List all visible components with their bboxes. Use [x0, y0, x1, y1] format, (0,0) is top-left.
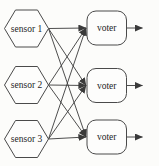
diagram-stage: sensor 1sensor 2sensor 3votervotervoter — [0, 0, 159, 166]
tmr-diagram: sensor 1sensor 2sensor 3votervotervoter — [0, 0, 159, 166]
edge-sensor-3-to-voter-3 — [49, 137, 87, 139]
voter-1-label: voter — [97, 23, 117, 33]
voter-2-node: voter — [87, 69, 127, 103]
sensor-2-node: sensor 2 — [5, 67, 49, 104]
voter-2-label: voter — [97, 81, 117, 91]
sensor-3-node: sensor 3 — [5, 121, 49, 158]
voter-3-label: voter — [97, 132, 117, 142]
sensor-2-label: sensor 2 — [11, 80, 43, 90]
sensor-1-label: sensor 1 — [11, 24, 43, 34]
voter-3-node: voter — [87, 120, 127, 154]
sensor-1-node: sensor 1 — [5, 10, 49, 47]
edge-sensor-1-to-voter-1 — [49, 28, 87, 29]
sensor-3-label: sensor 3 — [11, 134, 43, 144]
edge-sensor-2-to-voter-2 — [49, 85, 87, 86]
voter-1-node: voter — [87, 11, 127, 45]
